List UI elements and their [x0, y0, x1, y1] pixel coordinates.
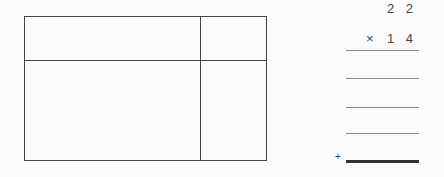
partial-product-line-3[interactable]: [346, 133, 419, 134]
partial-product-line-2[interactable]: [346, 107, 419, 108]
grid-cell-top-left[interactable]: [25, 17, 200, 60]
grid-cell-top-right[interactable]: [201, 17, 265, 60]
vertical-multiplication: 2 2 × 1 4 +: [330, 0, 444, 177]
result-line[interactable]: [346, 160, 419, 163]
plus-sign: +: [335, 151, 341, 162]
answer-line: [346, 50, 419, 51]
multiplicand: 2 2: [387, 1, 417, 16]
grid-cell-bottom-right[interactable]: [201, 61, 265, 159]
multiply-operator: ×: [366, 31, 378, 46]
area-model-grid: [24, 16, 267, 161]
grid-cell-bottom-left[interactable]: [25, 61, 200, 159]
partial-product-line-1[interactable]: [346, 78, 419, 79]
multiplier: 1 4: [387, 31, 417, 46]
